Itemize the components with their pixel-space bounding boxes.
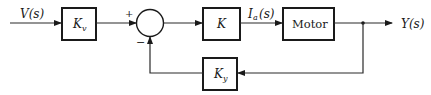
block-k-label: K — [216, 17, 227, 31]
block-diagram: V(s) K v + − K I a (s) Motor Y(s) K y — [0, 0, 431, 95]
armature-current-label: I a (s) — [247, 7, 275, 22]
summing-junction — [137, 10, 164, 37]
block-motor: Motor — [283, 8, 334, 40]
svg-text:(s): (s) — [259, 7, 275, 21]
svg-text:a: a — [253, 13, 258, 22]
block-ky: K y — [203, 58, 237, 90]
block-kv-subscript: v — [82, 24, 87, 33]
plus-sign: + — [125, 8, 133, 19]
block-kv: K v — [62, 8, 96, 40]
block-ky-subscript: y — [222, 74, 228, 83]
ky-to-sum-wire — [150, 37, 203, 73]
block-k: K — [203, 8, 240, 40]
input-signal-label: V(s) — [20, 7, 45, 21]
minus-sign: − — [136, 36, 145, 49]
output-signal-label: Y(s) — [401, 17, 425, 31]
block-motor-label: Motor — [292, 17, 328, 31]
